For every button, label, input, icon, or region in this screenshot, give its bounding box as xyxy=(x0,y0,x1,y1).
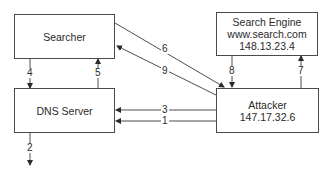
searcher-node: Searcher xyxy=(14,14,115,59)
dns-server-node: DNS Server xyxy=(14,88,115,133)
edge-label-8: 8 xyxy=(228,66,236,76)
search-engine-node: Search Engine www.search.com 148.13.23.4 xyxy=(216,12,318,56)
search-engine-name: Search Engine xyxy=(233,16,302,28)
edge-label-9: 9 xyxy=(161,66,169,76)
searcher-label: Searcher xyxy=(43,31,86,43)
edge-label-4: 4 xyxy=(26,68,34,78)
edge-label-2: 2 xyxy=(26,143,34,153)
edge-6 xyxy=(115,23,224,87)
search-engine-ip: 148.13.23.4 xyxy=(239,40,294,52)
attacker-ip: 147.17.32.6 xyxy=(240,111,295,123)
dns-server-label: DNS Server xyxy=(36,105,92,117)
edge-label-3: 3 xyxy=(161,105,169,115)
attacker-node: Attacker 147.17.32.6 xyxy=(216,88,319,133)
edge-label-1: 1 xyxy=(161,116,169,126)
attacker-name: Attacker xyxy=(248,99,287,111)
search-engine-host: www.search.com xyxy=(227,28,306,40)
edge-label-5: 5 xyxy=(94,68,102,78)
edge-label-7: 7 xyxy=(297,66,305,76)
edge-label-6: 6 xyxy=(161,44,169,54)
